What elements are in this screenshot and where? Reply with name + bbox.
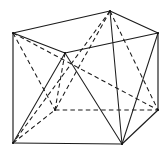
- diagonal-diag-botfrontright-to-topback: [110, 11, 122, 144]
- visible-edges-group: [13, 11, 158, 144]
- vertex-top-back-left: [109, 10, 111, 12]
- edge-top-right-to-top-back: [110, 11, 158, 33]
- edge-top-left-to-top-front: [13, 33, 65, 53]
- diagonal-diag-topfront-to-botfrontleft: [13, 53, 65, 143]
- edge-top-back-to-top-left: [13, 11, 110, 33]
- visible-diagonals-group: [13, 11, 158, 144]
- diagonal-diag-topfront-to-botfrontright: [65, 53, 122, 144]
- vertex-top-front-left: [12, 32, 14, 34]
- vertex-bot-front-right: [121, 143, 123, 145]
- edge-hidden-bottom-back-left: [13, 110, 55, 143]
- vertex-top-back-right: [157, 32, 159, 34]
- vertex-bot-back-right: [157, 109, 159, 111]
- parallelepiped-diagram: [0, 0, 168, 156]
- vertex-top-front-right: [64, 52, 66, 54]
- edge-bottom-front: [13, 143, 122, 144]
- figure-container: [0, 0, 168, 156]
- diagonal-hdiag-topback-to-botbackleft: [55, 11, 110, 110]
- hidden-diagonals-group: [13, 11, 158, 143]
- vertex-bot-front-left: [12, 142, 14, 144]
- vertex-bot-back-left: [54, 109, 56, 111]
- edge-top-front-to-top-right: [65, 33, 158, 53]
- vertex-markers-group: [12, 10, 159, 145]
